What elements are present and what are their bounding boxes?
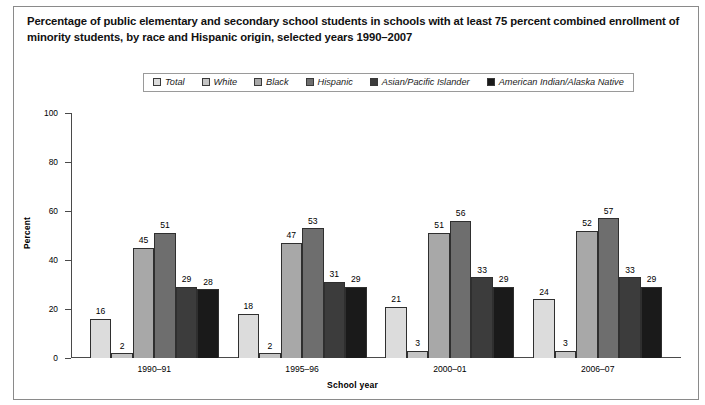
bar[interactable] [90,319,112,358]
bar-column[interactable]: 33 [471,113,493,358]
x-axis-label: School year [0,380,705,390]
bar-value-label: 47 [287,231,297,240]
bar[interactable] [133,248,155,358]
bar-group: 16245512928 [90,113,219,358]
bar-value-label: 51 [434,221,444,230]
bar-value-label: 29 [499,275,509,284]
bar-value-label: 18 [244,302,254,311]
plot-area: Percent School year 020406080100 1624551… [0,0,705,405]
bar-value-label: 33 [477,266,487,275]
bar-value-label: 16 [96,307,106,316]
bar-column[interactable]: 53 [302,113,324,358]
bar-column[interactable]: 24 [533,113,555,358]
bar-column[interactable]: 2 [259,113,281,358]
chart-page: Percentage of public elementary and seco… [0,0,705,405]
bar[interactable] [450,221,472,358]
bar[interactable] [555,351,577,358]
bar-column[interactable]: 18 [238,113,260,358]
bar-column[interactable]: 16 [90,113,112,358]
bar[interactable] [345,287,367,358]
bar[interactable] [619,277,641,358]
bar-value-label: 2 [120,342,125,351]
bar-column[interactable]: 51 [428,113,450,358]
bar-column[interactable]: 3 [555,113,577,358]
bar[interactable] [493,287,515,358]
bar-value-label: 28 [203,278,213,287]
bar-column[interactable]: 28 [197,113,219,358]
y-axis-tick-label: 80 [30,157,58,167]
bar[interactable] [111,353,133,358]
bar-value-label: 21 [391,295,401,304]
bar-column[interactable]: 56 [450,113,472,358]
bar-value-label: 3 [563,339,568,348]
bar-column[interactable]: 45 [133,113,155,358]
bar-column[interactable]: 3 [407,113,429,358]
bar[interactable] [238,314,260,358]
bar-column[interactable]: 47 [281,113,303,358]
bar-value-label: 57 [604,207,614,216]
bar[interactable] [407,351,429,358]
bar-value-label: 53 [308,217,318,226]
bar-column[interactable]: 31 [324,113,346,358]
x-axis-group-label: 2000–01 [385,364,514,374]
bar[interactable] [533,299,555,358]
y-axis-tick-label: 40 [30,255,58,265]
bar[interactable] [428,233,450,358]
bar-value-label: 31 [330,270,340,279]
bar-column[interactable]: 29 [345,113,367,358]
bar[interactable] [197,289,219,358]
bar[interactable] [385,307,407,358]
bar-value-label: 29 [647,275,657,284]
bar-value-label: 56 [456,209,466,218]
bar-value-label: 51 [160,221,170,230]
y-axis-tick-label: 100 [30,108,58,118]
x-axis-group-label: 1995–96 [238,364,367,374]
bar-column[interactable]: 51 [154,113,176,358]
y-axis-tick-label: 20 [30,304,58,314]
bar-value-label: 2 [267,342,272,351]
bar-value-label: 29 [182,275,192,284]
bar[interactable] [302,228,324,358]
y-axis-tick-label: 0 [30,353,58,363]
y-axis-tick-label: 60 [30,206,58,216]
bar-column[interactable]: 52 [576,113,598,358]
bar-column[interactable]: 57 [598,113,620,358]
bar[interactable] [176,287,198,358]
bar-value-label: 3 [415,339,420,348]
bars-container: 1624551292818247533129213515633292435257… [71,113,681,358]
bar[interactable] [259,353,281,358]
bar[interactable] [324,282,346,358]
bar-group: 18247533129 [238,113,367,358]
bar-value-label: 45 [139,236,149,245]
x-axis-group-label: 2006–07 [533,364,662,374]
y-axis-tick [65,358,71,359]
bar-column[interactable]: 21 [385,113,407,358]
bar[interactable] [598,218,620,358]
bar-column[interactable]: 33 [619,113,641,358]
bar-group: 24352573329 [533,113,662,358]
bar-column[interactable]: 2 [111,113,133,358]
bar-column[interactable]: 29 [641,113,663,358]
bar-column[interactable]: 29 [493,113,515,358]
bar[interactable] [471,277,493,358]
bar-column[interactable]: 29 [176,113,198,358]
bar-value-label: 29 [351,275,361,284]
bar[interactable] [641,287,663,358]
bar[interactable] [154,233,176,358]
bar[interactable] [281,243,303,358]
bar-value-label: 52 [582,219,592,228]
bar-group: 21351563329 [385,113,514,358]
bar-value-label: 24 [539,288,549,297]
bar-value-label: 33 [625,266,635,275]
x-axis-group-label: 1990–91 [90,364,219,374]
bar[interactable] [576,231,598,358]
